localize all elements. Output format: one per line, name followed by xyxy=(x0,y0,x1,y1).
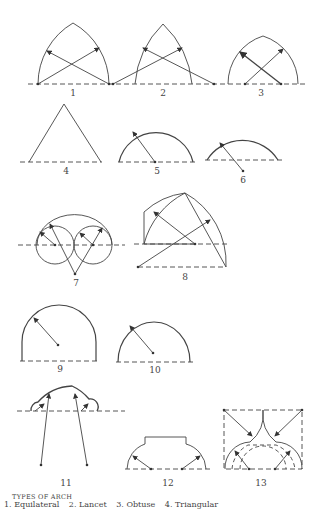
caption-item: 1. Equilateral xyxy=(4,500,59,509)
arch-number: 4 xyxy=(63,166,69,176)
arch-number: 8 xyxy=(182,272,188,282)
caption-list: 1. Equilateral 2. Lancet 3. Obtuse 4. Tr… xyxy=(4,500,225,509)
arch-number: 3 xyxy=(258,88,264,98)
arch-number: 5 xyxy=(154,166,160,176)
caption-item: 2. Lancet xyxy=(69,500,107,509)
arch-number: 13 xyxy=(255,478,266,488)
caption-item: 4. Triangular xyxy=(165,500,218,509)
arch-number: 6 xyxy=(240,175,246,185)
arch-number: 2 xyxy=(160,88,166,98)
arch-number: 11 xyxy=(60,478,71,488)
arch-number: 10 xyxy=(149,365,160,375)
arch-number: 7 xyxy=(73,278,79,288)
arch-number: 12 xyxy=(162,478,173,488)
arch-number: 9 xyxy=(57,364,63,374)
arch-number: 1 xyxy=(70,88,76,98)
caption-item: 3. Obtuse xyxy=(116,500,155,509)
